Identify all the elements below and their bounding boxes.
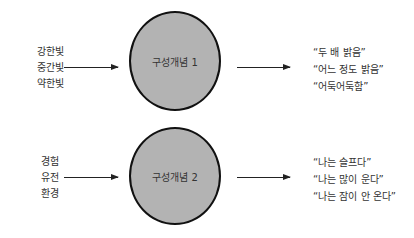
construct-label: 구성개념 2 — [152, 169, 198, 184]
output-list: “나는 슬프다” “나는 많이 운다” “나는 잠이 안 온다” — [313, 154, 396, 205]
arrow-icon — [64, 177, 118, 178]
input-item: 중간빛 — [30, 60, 70, 76]
input-item: 환경 — [30, 186, 70, 202]
input-item: 유전 — [30, 170, 70, 186]
construct-circle: 구성개념 1 — [129, 11, 221, 111]
construct-label: 구성개념 1 — [152, 54, 198, 69]
output-list: “두 배 밝음” “어느 정도 밝음” “어둑어둑함” — [313, 44, 384, 95]
output-item: “어둑어둑함” — [313, 78, 384, 95]
arrow-icon — [237, 67, 290, 68]
output-item: “나는 슬프다” — [313, 154, 396, 171]
input-list: 경험 유전 환경 — [30, 154, 70, 202]
arrow-icon — [64, 67, 118, 68]
construct-group-2: 경험 유전 환경 구성개념 2 “나는 슬프다” “나는 많이 운다” “나는 … — [0, 119, 414, 238]
construct-group-1: 강한빛 중간빛 약한빛 구성개념 1 “두 배 밝음” “어느 정도 밝음” “… — [0, 0, 414, 119]
input-item: 경험 — [30, 154, 70, 170]
output-item: “어느 정도 밝음” — [313, 61, 384, 78]
input-item: 강한빛 — [30, 44, 70, 60]
output-item: “나는 많이 운다” — [313, 171, 396, 188]
arrow-icon — [237, 177, 290, 178]
input-item: 약한빛 — [30, 76, 70, 92]
output-item: “나는 잠이 안 온다” — [313, 188, 396, 205]
construct-circle: 구성개념 2 — [129, 127, 221, 225]
output-item: “두 배 밝음” — [313, 44, 384, 61]
input-list: 강한빛 중간빛 약한빛 — [30, 44, 70, 92]
